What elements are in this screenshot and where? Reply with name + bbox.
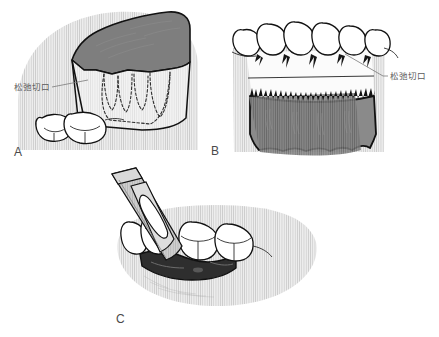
panel-b-reflected-flap (246, 88, 382, 156)
panel-b-callout-label: 松弛切口 (390, 71, 426, 81)
figure-root: 松弛切口 A (0, 0, 439, 337)
panel-c-letter: C (116, 312, 125, 326)
panel-a-letter: A (14, 145, 23, 159)
dental-flap-illustration: 松弛切口 A (0, 0, 439, 337)
panel-a-callout-label: 松弛切口 (14, 82, 50, 92)
panel-b-letter: B (211, 144, 220, 158)
